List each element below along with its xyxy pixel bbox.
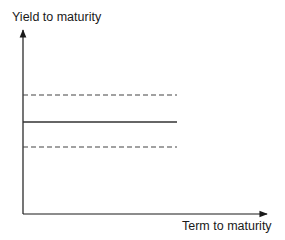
flat-yield-curve-diagram — [0, 0, 285, 240]
